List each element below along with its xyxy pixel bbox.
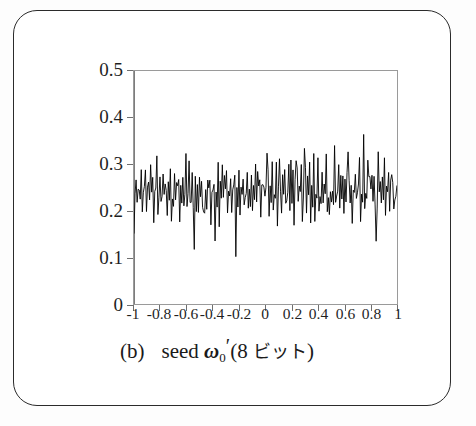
y-tick-label-0.4: 0.4 (63, 107, 123, 126)
y-tick-label-0.3: 0.3 (63, 154, 123, 173)
y-tick-label-0: 0 (63, 295, 123, 314)
plot-area (133, 70, 398, 305)
y-tick-label-0.1: 0.1 (63, 248, 123, 267)
x-tick-label-1: 1 (390, 306, 406, 322)
series-rho64-line (134, 134, 398, 256)
x-tick-label--0.2: -0.2 (220, 306, 258, 322)
caption-variable: ω (204, 339, 219, 363)
data-trace-svg (134, 71, 398, 305)
x-tick-label-0.2: 0.2 (278, 306, 307, 322)
caption-open: (8 (230, 339, 248, 363)
figure-caption: (b)seed ω0′(8 ビット) (120, 332, 400, 372)
x-tick-label-0.6: 0.6 (331, 306, 360, 322)
x-tick-label-0: 0 (257, 306, 273, 322)
figure-root: 0.5 0.4 0.3 0.2 0.1 0 -1 -0.8 -0.6 -0.4 … (0, 0, 476, 426)
y-tick-label-0.2: 0.2 (63, 201, 123, 220)
x-tick-label-0.8: 0.8 (357, 306, 386, 322)
caption-panel-tag: (b) (120, 339, 145, 363)
caption-prefix: seed (162, 339, 199, 363)
caption-units: ビット (253, 341, 307, 362)
caption-close: ) (307, 339, 314, 363)
x-tick-label-0.4: 0.4 (304, 306, 333, 322)
y-tick-label-0.5: 0.5 (63, 60, 123, 79)
